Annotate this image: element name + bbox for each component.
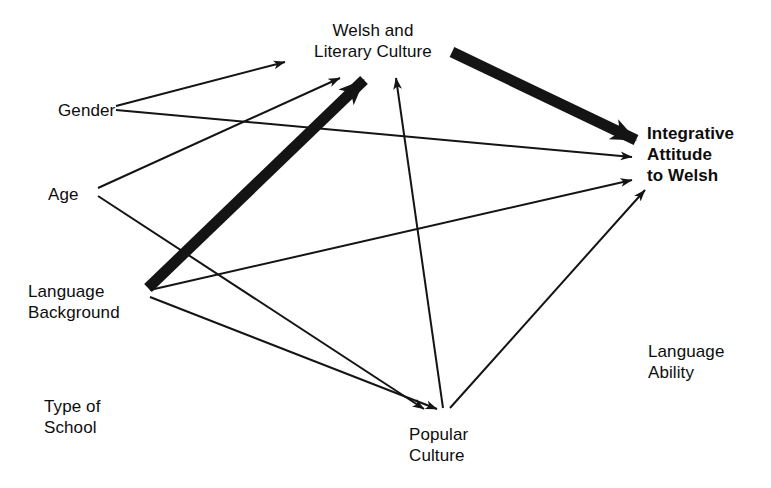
edge-language-background-to-welsh-culture	[148, 80, 364, 288]
edge-popular-culture-to-welsh-culture	[396, 78, 443, 408]
node-popular-culture-label: Popular Culture	[409, 425, 468, 465]
node-language-background-label: Language Background	[28, 282, 120, 322]
node-integrative-attitude-to-welsh-label: Integrative Attitude to Welsh	[647, 124, 734, 185]
edge-age-to-popular-culture	[98, 196, 424, 409]
node-language-background[interactable]: Language Background	[28, 281, 120, 323]
node-gender-label: Gender	[58, 101, 115, 120]
edge-layer	[0, 0, 771, 488]
node-language-ability-label: Language Ability	[648, 342, 724, 382]
edge-language-background-to-popular-culture	[150, 297, 437, 409]
node-welsh-and-literary-culture-label: Welsh and Literary Culture	[314, 21, 432, 61]
node-gender[interactable]: Gender	[58, 100, 115, 121]
path-diagram: Gender Age Language Background Type of S…	[0, 0, 771, 488]
node-age[interactable]: Age	[48, 184, 79, 205]
node-type-of-school-label: Type of School	[44, 397, 100, 437]
edge-welsh-culture-to-integrative-attitude	[452, 52, 636, 140]
edge-language-background-to-integrative-attitude	[150, 180, 632, 290]
node-type-of-school[interactable]: Type of School	[44, 396, 100, 438]
edge-gender-to-welsh-culture	[116, 62, 285, 106]
node-age-label: Age	[48, 185, 79, 204]
node-welsh-and-literary-culture[interactable]: Welsh and Literary Culture	[314, 20, 432, 62]
node-popular-culture[interactable]: Popular Culture	[409, 424, 468, 466]
node-integrative-attitude-to-welsh[interactable]: Integrative Attitude to Welsh	[647, 123, 734, 186]
edge-gender-to-integrative-attitude	[116, 110, 632, 157]
edge-popular-culture-to-integrative-attitude	[450, 190, 645, 408]
node-language-ability[interactable]: Language Ability	[648, 341, 724, 383]
